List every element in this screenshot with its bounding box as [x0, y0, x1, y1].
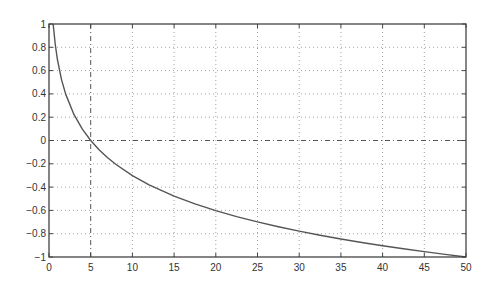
x-tick-label: 30: [294, 262, 306, 273]
x-tick-label: 45: [419, 262, 431, 273]
y-tick-label: 0: [40, 135, 46, 146]
x-tick-label: 0: [46, 262, 52, 273]
curve-line: [53, 24, 466, 257]
x-tick-label: 10: [127, 262, 139, 273]
x-tick-label: 40: [377, 262, 389, 273]
line-chart: 05101520253035404550 10.80.60.40.20−0.2−…: [0, 0, 499, 293]
x-tick-label: 50: [460, 262, 472, 273]
y-tick-label: 0.6: [32, 65, 46, 76]
x-tick-label: 35: [335, 262, 347, 273]
y-tick-label: −1: [35, 252, 47, 263]
x-tick-label: 5: [88, 262, 94, 273]
y-tick-label: −0.2: [26, 158, 46, 169]
y-tick-label: −0.6: [26, 205, 46, 216]
x-tick-label: 25: [252, 262, 264, 273]
x-tick-label: 15: [169, 262, 181, 273]
y-axis-labels: 10.80.60.40.20−0.2−0.4−0.6−0.8−1: [26, 19, 46, 263]
curve-series: [53, 24, 466, 257]
y-tick-label: −0.4: [26, 182, 46, 193]
x-axis-labels: 05101520253035404550: [46, 262, 472, 273]
y-tick-label: −0.8: [26, 228, 46, 239]
y-tick-label: 0.2: [32, 112, 46, 123]
x-tick-label: 20: [210, 262, 222, 273]
y-tick-label: 0.8: [32, 42, 46, 53]
y-tick-label: 0.4: [32, 88, 46, 99]
y-tick-label: 1: [40, 19, 46, 30]
